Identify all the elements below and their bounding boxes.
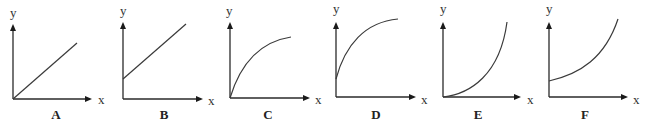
graph-letter-label: B <box>160 107 169 122</box>
graph-letter-label: D <box>371 107 380 122</box>
y-axis-label: y <box>333 1 340 16</box>
graph-b: yxB <box>120 3 215 122</box>
y-axis-label: y <box>546 1 553 16</box>
graph-e: yxE <box>440 1 534 122</box>
y-axis-arrow-icon <box>333 22 339 29</box>
graph-letter-label: A <box>51 107 61 122</box>
y-axis-arrow-icon <box>440 22 446 29</box>
x-axis-arrow-icon <box>196 96 203 102</box>
graph-c: yxC <box>226 3 322 122</box>
x-axis-label: x <box>98 92 105 107</box>
x-axis-label: x <box>421 92 428 107</box>
x-axis-label: x <box>633 92 640 107</box>
graph-curve <box>336 19 398 79</box>
graph-curve <box>549 19 618 81</box>
x-axis-label: x <box>315 92 322 107</box>
y-axis-arrow-icon <box>120 22 126 29</box>
y-axis-label: y <box>440 1 447 16</box>
graph-f: yxF <box>546 1 640 122</box>
y-axis-label: y <box>226 3 233 18</box>
graph-d: yxD <box>333 1 428 122</box>
graph-letter-label: C <box>263 107 272 122</box>
graph-curve <box>123 24 186 79</box>
graph-letter-label: E <box>474 107 483 122</box>
y-axis-label: y <box>120 3 127 18</box>
y-axis-label: y <box>10 5 17 20</box>
x-axis-arrow-icon <box>409 94 416 100</box>
graph-letter-label: F <box>581 107 589 122</box>
graph-a: yxA <box>10 5 105 122</box>
graph-curve <box>13 43 77 99</box>
graph-curve <box>230 37 291 98</box>
graphs-figure: yxAyxByxCyxDyxEyxF <box>0 0 645 124</box>
graph-curve <box>443 22 507 97</box>
x-axis-arrow-icon <box>85 96 92 102</box>
y-axis-arrow-icon <box>10 24 16 31</box>
x-axis-label: x <box>208 93 215 108</box>
y-axis-arrow-icon <box>546 22 552 29</box>
x-axis-arrow-icon <box>303 95 310 101</box>
y-axis-arrow-icon <box>227 22 233 29</box>
x-axis-label: x <box>527 92 534 107</box>
x-axis-arrow-icon <box>514 94 521 100</box>
x-axis-arrow-icon <box>621 94 628 100</box>
